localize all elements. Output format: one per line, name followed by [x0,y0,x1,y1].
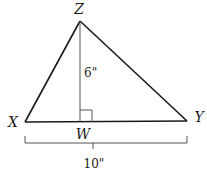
vertex-label-y: Y [194,109,205,125]
vertex-label-x: X [7,114,19,130]
vertex-label-w: W [76,126,92,142]
height-label: 6" [84,66,97,80]
side-xy [25,121,187,122]
triangle-diagram: Z X Y W 6" 10" [0,0,207,182]
vertex-label-z: Z [73,1,84,17]
base-label: 10" [84,157,105,171]
base-bracket [25,136,187,143]
side-xz [25,21,80,122]
right-angle-marker [80,110,92,122]
